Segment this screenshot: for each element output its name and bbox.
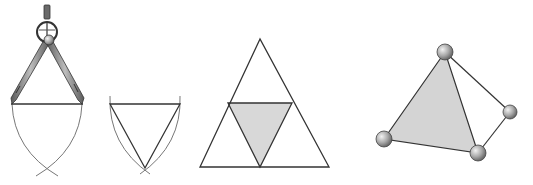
- subdivided-triangle-panel: [200, 39, 329, 167]
- vertex-left-sphere: [376, 131, 392, 147]
- inverted-triangle: [110, 104, 180, 168]
- construction-arcs: [12, 104, 82, 176]
- tetrahedron-panel: [376, 44, 517, 161]
- construction-arcs: [110, 96, 180, 174]
- shaded-face: [384, 52, 478, 153]
- center-shaded-triangle: [228, 103, 292, 167]
- vertex-right-sphere: [503, 105, 517, 119]
- right-arc: [140, 96, 180, 174]
- compass-construction-panel: [11, 5, 84, 176]
- geometry-figure: [0, 0, 533, 185]
- vertex-bottom-sphere: [470, 145, 486, 161]
- vertex-top-sphere: [437, 44, 453, 60]
- left-arc: [110, 96, 150, 174]
- compass-icon: [11, 5, 84, 104]
- equilateral-triangle-panel: [110, 96, 180, 174]
